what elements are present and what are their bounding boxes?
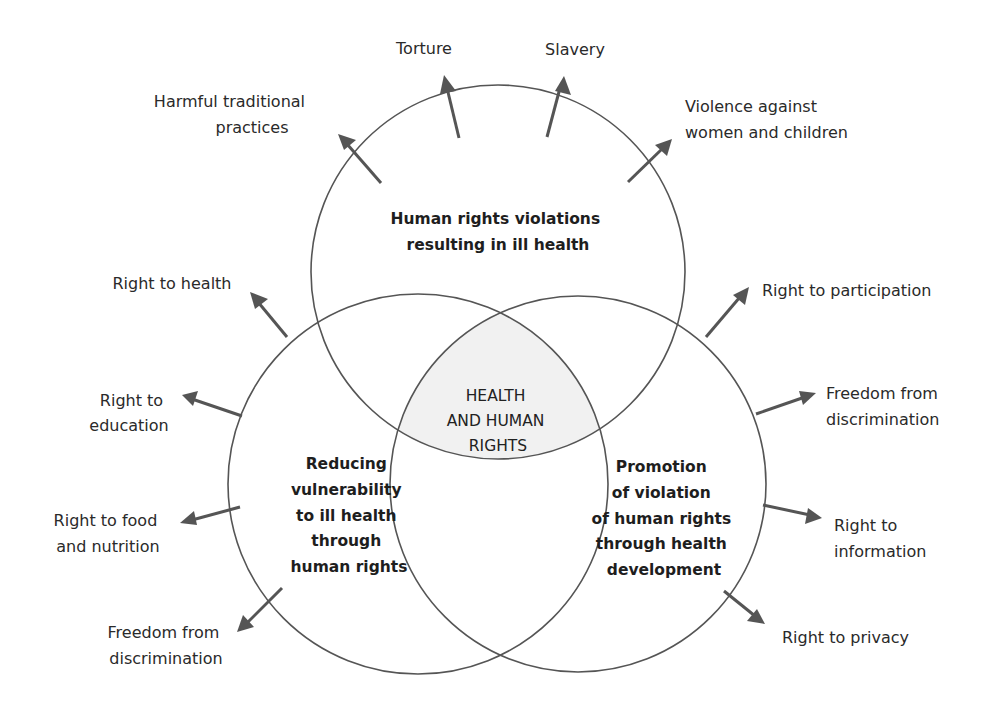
label-harmful-practices: Harmful traditional practices xyxy=(154,92,310,137)
label-torture: Torture xyxy=(395,39,452,58)
arrow-right-to-health xyxy=(250,292,287,337)
arrow-harmful-practices xyxy=(338,134,381,183)
arrow-slavery xyxy=(547,76,571,137)
arrow-torture xyxy=(440,75,459,138)
label-right-to-food: Right to food and nutrition xyxy=(54,511,163,556)
label-right-to-participation: Right to participation xyxy=(762,281,931,300)
top-circle-title: Human rights violations resulting in ill… xyxy=(390,210,605,254)
venn-diagram: Torture Slavery Harmful traditional prac… xyxy=(0,0,995,705)
label-right-to-health: Right to health xyxy=(112,274,231,293)
label-violence: Violence against women and children xyxy=(685,97,848,142)
label-right-to-privacy: Right to privacy xyxy=(782,628,909,647)
arrow-right-to-privacy xyxy=(724,591,765,624)
label-left-freedom-discrimination: Freedom from discrimination xyxy=(108,623,225,668)
arrow-right-to-participation xyxy=(706,287,749,337)
right-circle-title: Promotion of violation of human rights t… xyxy=(591,458,736,579)
arrow-right-to-education xyxy=(182,391,242,416)
label-right-freedom-discrimination: Freedom from discrimination xyxy=(826,384,943,429)
label-right-to-education: Right to education xyxy=(89,391,168,435)
label-slavery: Slavery xyxy=(545,40,605,59)
arrow-right-to-information xyxy=(763,505,822,524)
label-right-to-information: Right to information xyxy=(834,516,926,561)
arrow-right-freedom-discrimination xyxy=(756,391,816,414)
